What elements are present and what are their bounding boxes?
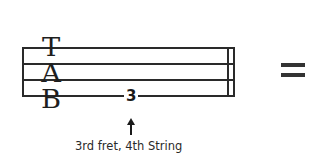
end-barline-outer (233, 47, 235, 97)
tab-clef-letter-a: A (37, 62, 64, 84)
tab-clef-letter-t: T (37, 36, 64, 58)
end-barline-thin (227, 47, 229, 97)
tab-clef-letter-b: B (37, 88, 64, 110)
arrow-shaft (130, 124, 132, 135)
tab-staff-diagram: T A B 3 3rd fret, 4th String (0, 0, 329, 167)
fret-caption: 3rd fret, 4th String (75, 139, 182, 153)
fret-number: 3 (124, 88, 138, 104)
start-barline (22, 47, 24, 97)
